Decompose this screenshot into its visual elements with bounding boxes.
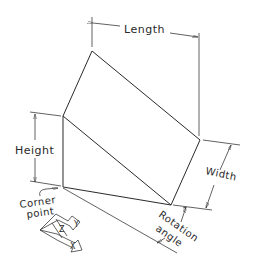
width-dimension: Width — [173, 140, 240, 210]
axis-icon: Y Z X — [40, 214, 82, 252]
length-label: Length — [124, 23, 165, 36]
axis-x-label: X — [70, 242, 76, 251]
height-dimension: Height — [15, 112, 61, 186]
axis-z-label: Z — [59, 225, 65, 234]
length-dimension: Length — [92, 17, 199, 136]
rotation-angle-dimension: Rotation angle — [63, 188, 201, 253]
width-label: Width — [205, 165, 238, 182]
axis-y-label: Y — [73, 220, 79, 229]
wedge-diagram: Length Height Width Rotation angle Corne… — [0, 0, 254, 273]
height-label: Height — [15, 144, 55, 157]
wedge-shape — [63, 51, 200, 205]
corner-point-callout: Corner point — [19, 188, 58, 220]
